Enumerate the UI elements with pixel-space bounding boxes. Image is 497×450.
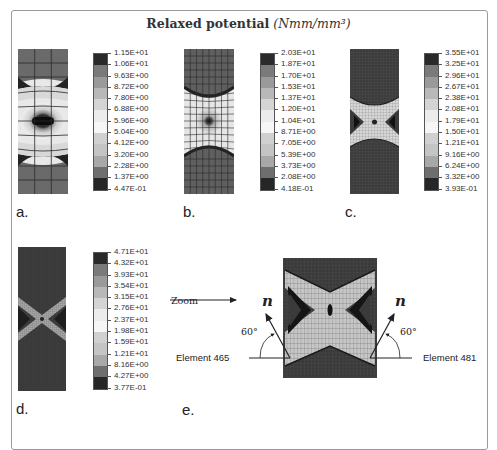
specimen-a xyxy=(18,49,68,194)
legend-value: 2.08E+00 xyxy=(274,173,315,184)
legend-value: 4.27E+00 xyxy=(107,372,148,383)
legend-value: 4.18E-01 xyxy=(274,185,315,196)
normal-label-left: n xyxy=(262,292,273,310)
legend-value: 3.25E+01 xyxy=(438,60,479,71)
legend-value: 3.93E-01 xyxy=(438,185,479,196)
figure-title: Relaxed potential (Nmm/mm³) xyxy=(0,16,497,31)
specimen-d xyxy=(18,247,66,391)
panel-label-a: a. xyxy=(16,203,29,220)
angle-label-right: 60° xyxy=(400,326,417,337)
legend-value: 1.37E+00 xyxy=(107,173,148,184)
normal-label-right: n xyxy=(395,292,406,310)
specimen-b xyxy=(184,49,234,194)
element-481-label: Element 481 xyxy=(423,352,476,363)
specimen-c xyxy=(350,49,399,194)
title-text: Relaxed potential xyxy=(146,16,269,31)
legend-value: 4.32E+01 xyxy=(107,259,148,270)
legend-value: 1.21E+01 xyxy=(438,139,479,150)
panel-label-c: c. xyxy=(345,203,357,220)
color-scale xyxy=(93,252,108,390)
zoom-label: Zoom xyxy=(171,295,198,306)
angle-label-left: 60° xyxy=(241,326,258,337)
panel-label-d: d. xyxy=(16,400,29,417)
panel-label-b: b. xyxy=(183,203,196,220)
legend-value: 1.06E+01 xyxy=(107,60,148,71)
color-scale xyxy=(424,53,439,191)
legend-value: 4.12E+00 xyxy=(107,139,148,150)
legend-value: 4.47E-01 xyxy=(107,185,148,196)
panel-label-e: e. xyxy=(182,401,195,418)
legend-value: 3.77E-01 xyxy=(107,384,148,395)
color-scale xyxy=(260,53,275,191)
legend-value: 1.87E+01 xyxy=(274,60,315,71)
legend-value: 1.59E+01 xyxy=(107,338,148,349)
color-scale xyxy=(93,53,108,191)
figure-frame xyxy=(11,10,488,450)
title-units: (Nmm/mm³) xyxy=(273,16,350,31)
legend-value: 7.05E+00 xyxy=(274,139,315,150)
legend-value: 3.32E+00 xyxy=(438,173,479,184)
element-465-label: Element 465 xyxy=(176,352,229,363)
